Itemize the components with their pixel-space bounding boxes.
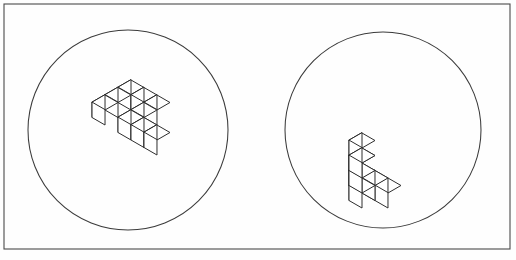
stimulus-canvas <box>0 0 516 260</box>
mental-rotation-figure <box>0 0 516 260</box>
page-background <box>0 0 516 260</box>
